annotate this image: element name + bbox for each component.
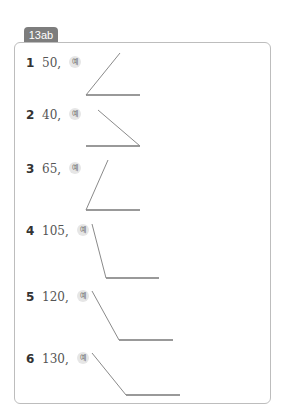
answer-item-2: 2 40, 예 bbox=[26, 106, 81, 122]
example-circle-icon: 예 bbox=[69, 56, 81, 68]
item-angle-value: 65, bbox=[42, 162, 61, 176]
item-number: 5 bbox=[26, 289, 36, 305]
answer-item-3: 3 65, 예 bbox=[26, 160, 81, 176]
example-circle-icon: 예 bbox=[69, 108, 81, 120]
item-angle-value: 105, bbox=[42, 224, 69, 238]
answer-item-5: 5 120, 예 bbox=[26, 288, 89, 304]
example-circle-icon: 예 bbox=[77, 290, 89, 302]
answer-item-1: 1 50, 예 bbox=[26, 54, 81, 70]
item-number: 3 bbox=[26, 161, 36, 177]
example-circle-icon: 예 bbox=[77, 224, 89, 236]
example-circle-icon: 예 bbox=[69, 162, 81, 174]
answer-item-6: 6 130, 예 bbox=[26, 350, 89, 366]
item-number: 2 bbox=[26, 107, 36, 123]
item-angle-value: 120, bbox=[42, 290, 69, 304]
item-angle-value: 50, bbox=[42, 56, 61, 70]
section-label-tab: 13ab bbox=[24, 27, 58, 43]
item-angle-value: 130, bbox=[42, 352, 69, 366]
example-circle-icon: 예 bbox=[77, 352, 89, 364]
item-number: 1 bbox=[26, 55, 36, 71]
item-number: 6 bbox=[26, 351, 36, 367]
answer-item-4: 4 105, 예 bbox=[26, 222, 89, 238]
item-number: 4 bbox=[26, 223, 36, 239]
item-angle-value: 40, bbox=[42, 108, 61, 122]
